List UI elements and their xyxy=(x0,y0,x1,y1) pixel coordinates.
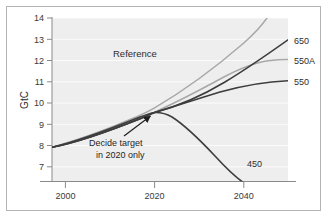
plot-background xyxy=(52,18,288,181)
x-axis-ticks xyxy=(65,182,243,189)
y-tick-label-13: 13 xyxy=(34,35,44,45)
x-tick-label-2020: 2020 xyxy=(145,191,165,201)
series-label-450: 450 xyxy=(247,159,262,169)
y-tick-label-14: 14 xyxy=(34,13,44,23)
series-label-550a: 550A xyxy=(294,56,315,66)
x-tick-label-2000: 2000 xyxy=(55,191,75,201)
y-tick-label-12: 12 xyxy=(34,56,44,66)
y-tick-label-11: 11 xyxy=(35,77,44,87)
series-label-650: 650 xyxy=(294,36,309,46)
x-tick-label-2040: 2040 xyxy=(234,191,254,201)
y-tick-label-9: 9 xyxy=(39,120,44,130)
chart-figure: 14 13 12 11 10 9 8 7 GtC 2000 2020 2040 xyxy=(0,0,328,218)
series-label-reference: Reference xyxy=(113,48,157,59)
annotation-line-2: in 2020 only xyxy=(96,150,145,160)
line-chart: 14 13 12 11 10 9 8 7 GtC 2000 2020 2040 xyxy=(0,0,328,218)
y-tick-label-10: 10 xyxy=(34,98,44,108)
y-tick-label-8: 8 xyxy=(39,141,44,151)
y-axis-ticks xyxy=(47,18,52,167)
annotation-line-1: Decide target xyxy=(89,138,143,148)
y-axis-title: GtC xyxy=(19,91,30,109)
series-label-550: 550 xyxy=(294,77,309,87)
y-tick-label-7: 7 xyxy=(39,162,44,172)
